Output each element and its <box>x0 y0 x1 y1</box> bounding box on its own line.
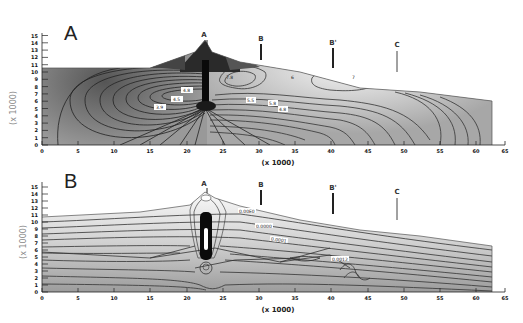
y-tick-label: 10 <box>31 69 38 75</box>
y-tick-label: 14 <box>31 40 38 46</box>
y-tick-label: 14 <box>31 191 38 197</box>
y-tick-label: 2 <box>35 275 39 281</box>
y-tick-label: 13 <box>31 198 38 204</box>
x-tick-label: 20 <box>184 148 191 154</box>
contour-label: 7 <box>352 75 355 80</box>
y-tick-label: 1 <box>35 282 39 288</box>
contour-field-b <box>42 185 492 292</box>
x-tick-label: 25 <box>220 295 227 301</box>
y-tick-label: 15 <box>31 33 38 39</box>
marker-b-prime: B' <box>329 184 336 192</box>
x-tick-label: 35 <box>292 148 299 154</box>
x-tick-label: 60 <box>473 295 480 301</box>
y-tick-label: 7 <box>35 91 39 97</box>
contour-label: 0.0000 <box>256 224 272 229</box>
y-tick-label: 5 <box>35 254 39 260</box>
contour-label: 5.5 <box>247 98 254 103</box>
figure: A (x 1000) <box>0 0 523 323</box>
panel-letter-b: B <box>64 170 77 192</box>
y-tick-label: 4 <box>35 261 39 267</box>
marker-c: C <box>394 41 399 49</box>
marker-b: B <box>258 35 263 43</box>
contour-label: 3.9 <box>156 105 163 110</box>
y-tick-label: 0 <box>35 289 39 295</box>
y-tick-label: 0 <box>35 142 39 148</box>
x-tick-label: 65 <box>502 295 509 301</box>
y-tick-label: 4 <box>35 113 39 119</box>
x-tick-label: 20 <box>184 295 191 301</box>
x-tick-label: 5 <box>76 148 80 154</box>
y-tick-label: 3 <box>35 120 39 126</box>
y-tick-label: 12 <box>31 54 38 60</box>
x-tick-label: 35 <box>292 295 299 301</box>
marker-c: C <box>394 188 399 196</box>
contour-label: 4.5 <box>173 97 180 102</box>
y-tick-label: 6 <box>35 247 39 253</box>
x-tick-label: 30 <box>256 295 263 301</box>
panel-letter-a: A <box>64 22 78 44</box>
marker-a: A <box>201 31 207 39</box>
contour-label: 0.0012 <box>332 257 348 262</box>
y-tick-label: 11 <box>31 62 38 68</box>
contour-label: 7.8 <box>226 75 233 80</box>
x-tick-label: 5 <box>76 295 80 301</box>
x-tick-label: 40 <box>328 148 335 154</box>
x-tick-label: 55 <box>437 295 444 301</box>
x-tick-label: 15 <box>147 295 154 301</box>
contour-label: 4.8 <box>183 88 190 93</box>
x-tick-label: 60 <box>473 148 480 154</box>
marker-b-prime: B' <box>329 39 336 47</box>
y-tick-label: 15 <box>31 184 38 190</box>
y-tick-label: 2 <box>35 127 39 133</box>
marker-a: A <box>201 180 207 188</box>
y-tick-label: 6 <box>35 98 39 104</box>
x-tick-label: 55 <box>437 148 444 154</box>
marker-b: B <box>258 181 263 189</box>
x-axis-label-a: (x 1000) <box>262 159 295 167</box>
y-tick-label: 11 <box>31 212 38 218</box>
panel-a: A (x 1000) <box>9 22 509 167</box>
x-tick-label: 50 <box>401 148 408 154</box>
contour-label: 0.00E0 <box>239 209 255 214</box>
y-tick-label: 3 <box>35 268 39 274</box>
x-axis-label-b: (x 1000) <box>262 306 295 314</box>
y-tick-label: 7 <box>35 240 39 246</box>
x-tick-label: 0 <box>40 295 44 301</box>
y-tick-label: 9 <box>35 76 39 82</box>
y-tick-label: 8 <box>35 233 39 239</box>
y-tick-label: 1 <box>35 135 39 141</box>
y-tick-label: 13 <box>31 47 38 53</box>
contour-label: 6 <box>291 75 294 80</box>
y-tick-label: 8 <box>35 84 39 90</box>
x-tick-label: 0 <box>40 148 44 154</box>
x-tick-label: 10 <box>111 148 118 154</box>
x-tick-label: 30 <box>256 148 263 154</box>
x-tick-label: 25 <box>220 148 227 154</box>
contour-label: 4.8 <box>279 107 286 112</box>
contour-label: 5.8 <box>269 101 276 106</box>
y-tick-label: 9 <box>35 226 39 232</box>
y-tick-label: 10 <box>31 219 38 225</box>
y-tick-label: 5 <box>35 106 39 112</box>
contour-field-a <box>42 30 492 145</box>
y-axis-label-b: (x 1000) <box>19 225 28 259</box>
y-tick-label: 12 <box>31 205 38 211</box>
x-tick-label: 15 <box>147 148 154 154</box>
x-tick-label: 45 <box>365 148 372 154</box>
x-tick-label: 65 <box>502 148 509 154</box>
x-tick-label: 45 <box>365 295 372 301</box>
x-tick-label: 10 <box>111 295 118 301</box>
x-tick-label: 40 <box>328 295 335 301</box>
panel-b: B (x 1000) <box>19 170 509 314</box>
y-axis-label-a: (x 1000) <box>9 91 18 125</box>
x-tick-label: 50 <box>401 295 408 301</box>
